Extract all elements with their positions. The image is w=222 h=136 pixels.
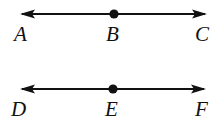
point-label-a: A xyxy=(14,24,27,45)
line-def-group: D E F xyxy=(0,75,222,136)
point-label-c: C xyxy=(195,24,209,45)
point-label-b: B xyxy=(106,24,119,45)
geometry-figure: A B C D E F xyxy=(0,0,222,136)
point-label-d: D xyxy=(11,99,26,120)
point-label-f: F xyxy=(195,99,208,120)
point-marker-e xyxy=(108,84,117,93)
point-marker-b xyxy=(109,9,118,18)
point-label-e: E xyxy=(105,99,118,120)
line-abc-group: A B C xyxy=(0,0,222,60)
